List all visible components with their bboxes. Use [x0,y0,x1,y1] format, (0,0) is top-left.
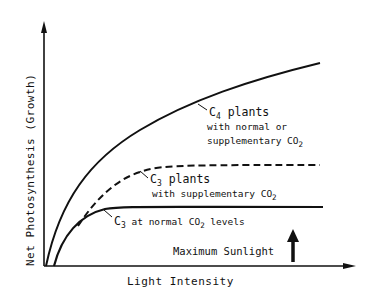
c3n-leader [104,210,112,217]
max-sunlight-arrow-icon [287,229,299,242]
c3-supplementary-label: C3 plants [150,172,210,188]
c3-normal-label: C3 at normal CO2 levels [114,214,245,230]
max-sunlight-label: Maximum Sunlight [173,245,274,257]
c4-label-line3: supplementary CO2 [207,135,303,149]
x-axis-arrow-icon [343,263,356,269]
c4-label: C4 plants [209,105,269,121]
photosynthesis-chart: C4 plants with normal or supplementary C… [0,0,375,302]
c4-label-line2: with normal or [207,121,287,132]
y-axis-title: Net Photosynthesis (Growth) [24,74,37,266]
y-axis-arrow-icon [41,21,47,33]
c3s-leader [140,171,148,178]
x-axis-title: Light Intensity [127,275,234,288]
c3-supplementary-label-line2: with supplementary CO2 [152,188,277,202]
c4-leader [198,104,207,110]
